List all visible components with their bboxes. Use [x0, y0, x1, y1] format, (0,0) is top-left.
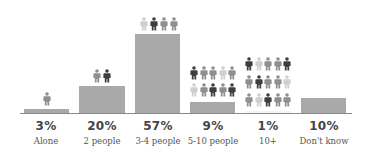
person-icon [190, 83, 198, 97]
person-icon [228, 83, 236, 97]
person-icon [103, 69, 111, 83]
icons-5-10-people [190, 66, 236, 97]
person-icon [219, 83, 227, 97]
person-icon [274, 75, 282, 89]
person-icon [140, 17, 148, 31]
icons-3-4-people [140, 17, 178, 31]
person-icon [228, 66, 236, 80]
person-icon [274, 57, 282, 71]
value-label-5-10-people: 9% [183, 119, 243, 133]
person-icon [283, 75, 291, 89]
person-icon [190, 66, 198, 80]
icons-10-plus [245, 57, 291, 107]
bar-2-people [79, 86, 125, 113]
bar-5-10-people [190, 102, 235, 113]
person-icon [170, 17, 178, 31]
person-icon [200, 66, 208, 80]
person-icon [209, 83, 217, 97]
person-icon [283, 93, 291, 107]
person-icon [93, 69, 101, 83]
person-icon [264, 75, 272, 89]
bar-3-4-people [135, 34, 180, 113]
person-icon [245, 57, 253, 71]
person-icon [283, 57, 291, 71]
person-icon [255, 93, 263, 107]
x-axis-baseline [20, 113, 352, 114]
icons-alone [43, 92, 51, 106]
person-icon [264, 93, 272, 107]
value-label-2-people: 20% [72, 119, 132, 133]
value-label-10-plus: 1% [238, 119, 298, 133]
person-icon [255, 75, 263, 89]
person-icon [200, 83, 208, 97]
value-label-dont-know: 10% [294, 119, 354, 133]
value-label-3-4-people: 57% [128, 119, 188, 133]
person-icon [255, 57, 263, 71]
person-icon [209, 66, 217, 80]
person-icon [219, 66, 227, 80]
person-icon [274, 93, 282, 107]
person-icon [264, 57, 272, 71]
icons-2-people [93, 69, 111, 83]
bar-dont-know [301, 98, 346, 113]
person-icon [245, 93, 253, 107]
person-icon [150, 17, 158, 31]
category-label-dont-know: Don't know [289, 136, 359, 146]
bar-chart: 3% 20% 57% 9% 1% 10% Alone 2 people 3-4 … [0, 0, 367, 157]
value-label-alone: 3% [16, 119, 76, 133]
person-icon [245, 75, 253, 89]
person-icon [160, 17, 168, 31]
person-icon [43, 92, 51, 106]
